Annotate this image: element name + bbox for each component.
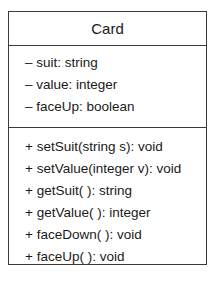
operation-setvalue: + setValue(integer v): void (9, 158, 206, 180)
operation-getsuit: + getSuit( ): string (9, 180, 206, 202)
operations-section: + setSuit(string s): void + setValue(int… (9, 128, 206, 268)
attribute-value: – value: integer (9, 74, 206, 96)
uml-class-card: Card – suit: string – value: integer – f… (8, 11, 207, 265)
operation-setsuit: + setSuit(string s): void (9, 136, 206, 158)
operation-getvalue: + getValue( ): integer (9, 202, 206, 224)
attributes-section: – suit: string – value: integer – faceUp… (9, 46, 206, 128)
operation-facedown: + faceDown( ): void (9, 224, 206, 246)
attribute-faceup: – faceUp: boolean (9, 96, 206, 118)
attribute-suit: – suit: string (9, 52, 206, 74)
class-name: Card (9, 12, 206, 46)
operation-faceup: + faceUp( ): void (9, 246, 206, 268)
